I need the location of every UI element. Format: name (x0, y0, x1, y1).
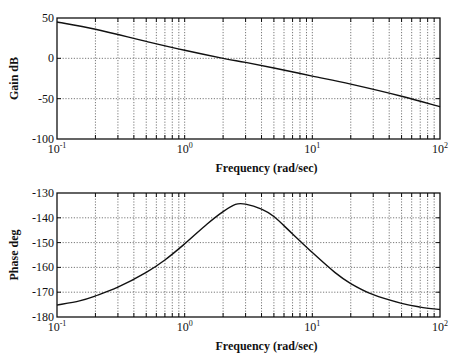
plot-frame (57, 18, 440, 139)
phase-plot: -130-140-150-160-170-18010-1100101102Fre… (7, 186, 448, 353)
y-tick-label: 50 (42, 11, 54, 25)
x-tick-label: 102 (432, 141, 448, 156)
x-tick-label: 100 (177, 141, 193, 156)
series-line-gain (57, 22, 440, 107)
series-line-phase (57, 204, 440, 310)
x-tick-label: 100 (177, 319, 193, 334)
bode-plot: 500-50-10010-1100101102Frequency (rad/se… (0, 0, 453, 360)
gain-plot: 500-50-10010-1100101102Frequency (rad/se… (7, 11, 448, 175)
y-tick-label: -140 (32, 211, 54, 225)
y-axis-label: Gain dB (7, 57, 21, 100)
x-tick-label: 10-1 (48, 319, 67, 334)
x-axis-label: Frequency (rad/sec) (215, 161, 317, 175)
x-tick-label: 101 (304, 141, 320, 156)
y-tick-label: -170 (32, 285, 54, 299)
y-axis-label: Phase deg (7, 230, 21, 281)
y-tick-label: 0 (48, 51, 54, 65)
grid-lines (57, 18, 440, 139)
x-tick-label: 102 (432, 319, 448, 334)
y-tick-label: -160 (32, 260, 54, 274)
y-tick-label: -50 (38, 92, 54, 106)
y-tick-label: -150 (32, 236, 54, 250)
x-tick-label: 101 (304, 319, 320, 334)
x-tick-label: 10-1 (48, 141, 67, 156)
x-axis-label: Frequency (rad/sec) (215, 339, 317, 353)
y-tick-label: -130 (32, 186, 54, 200)
